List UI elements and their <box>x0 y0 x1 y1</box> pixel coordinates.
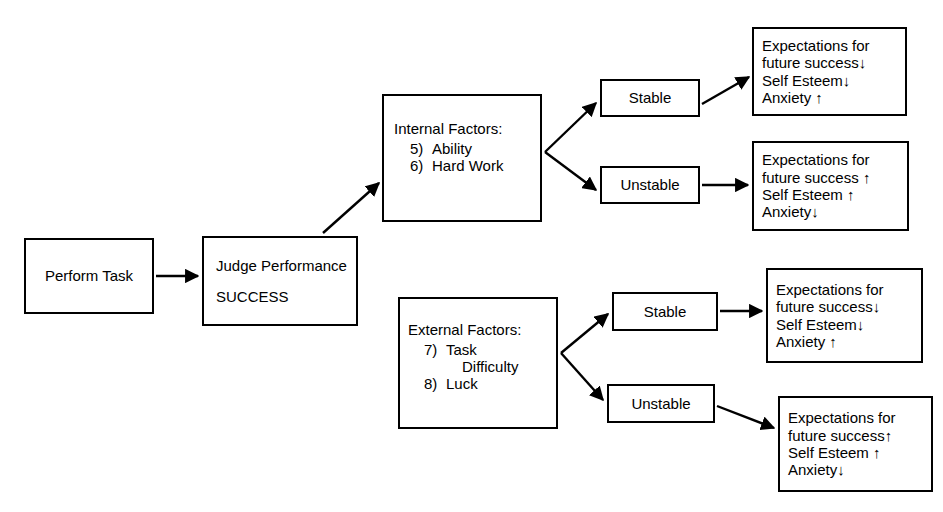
outcome-2-line-3: Self Esteem ↑ <box>762 186 907 203</box>
node-judge-performance[interactable]: Judge Performance SUCCESS <box>202 236 358 326</box>
external-factors-item-1-number: 7) <box>424 341 446 358</box>
edge-external-factors-to-stable <box>561 314 608 353</box>
node-perform-task-label: Perform Task <box>45 267 133 284</box>
outcome-3-line-1: Expectations for <box>776 281 921 298</box>
node-stable-internal[interactable]: Stable <box>600 79 700 117</box>
edge-unstable-external-to-outcome-4 <box>717 406 774 428</box>
outcome-1-line-2: future success↓ <box>762 54 905 71</box>
node-judge-performance-outcome: SUCCESS <box>216 288 356 305</box>
outcome-2-line-2: future success ↑ <box>762 169 907 186</box>
internal-factors-title: Internal Factors: <box>394 120 540 137</box>
external-factors-item-1-continuation: Difficulty <box>408 358 556 375</box>
internal-factors-item-2-text: Hard Work <box>432 157 503 174</box>
edge-external-factors-to-unstable <box>561 353 603 400</box>
external-factors-item-2: 8)Luck <box>408 375 556 392</box>
internal-factors-item-1: 5)Ability <box>394 140 540 157</box>
external-factors-item-1-text: Task <box>446 341 477 358</box>
outcome-1-line-4: Anxiety ↑ <box>762 89 905 106</box>
edge-stable-internal-to-outcome-1 <box>702 77 749 104</box>
node-stable-internal-label: Stable <box>629 89 672 106</box>
node-unstable-external-label: Unstable <box>631 395 690 412</box>
node-outcome-1[interactable]: Expectations for future success↓ Self Es… <box>752 27 907 116</box>
node-stable-external[interactable]: Stable <box>612 292 718 331</box>
node-unstable-internal[interactable]: Unstable <box>600 166 700 204</box>
edge-internal-factors-to-stable <box>545 103 596 152</box>
outcome-1-line-3: Self Esteem↓ <box>762 72 905 89</box>
node-stable-external-label: Stable <box>644 303 687 320</box>
outcome-3-line-2: future success↓ <box>776 298 921 315</box>
node-outcome-4[interactable]: Expectations for future success↑ Self Es… <box>778 396 933 492</box>
outcome-4-line-3: Self Esteem ↑ <box>788 444 931 461</box>
outcome-4-line-4: Anxiety↓ <box>788 461 931 478</box>
diagram-canvas: Perform Task Judge Performance SUCCESS I… <box>0 0 943 512</box>
edge-internal-factors-to-unstable <box>545 152 596 190</box>
internal-factors-item-2: 6)Hard Work <box>394 157 540 174</box>
node-external-factors[interactable]: External Factors: 7)Task Difficulty 8)Lu… <box>398 297 558 429</box>
node-internal-factors[interactable]: Internal Factors: 5)Ability 6)Hard Work <box>382 94 542 222</box>
node-judge-performance-label: Judge Performance <box>216 257 356 274</box>
node-outcome-3[interactable]: Expectations for future success↓ Self Es… <box>766 268 923 363</box>
outcome-3-line-3: Self Esteem↓ <box>776 316 921 333</box>
external-factors-item-2-number: 8) <box>424 375 446 392</box>
node-outcome-2[interactable]: Expectations for future success ↑ Self E… <box>752 141 909 231</box>
edge-judge-performance-to-internal-factors <box>323 183 379 233</box>
outcome-4-line-1: Expectations for <box>788 409 931 426</box>
node-unstable-internal-label: Unstable <box>620 176 679 193</box>
external-factors-title: External Factors: <box>408 321 556 338</box>
internal-factors-item-2-number: 6) <box>410 157 432 174</box>
spacer <box>216 274 356 288</box>
outcome-4-line-2: future success↑ <box>788 427 931 444</box>
internal-factors-item-1-number: 5) <box>410 140 432 157</box>
node-unstable-external[interactable]: Unstable <box>607 384 715 423</box>
outcome-2-line-1: Expectations for <box>762 151 907 168</box>
external-factors-item-1: 7)Task <box>408 341 556 358</box>
node-perform-task[interactable]: Perform Task <box>24 238 154 314</box>
outcome-3-line-4: Anxiety ↑ <box>776 333 921 350</box>
external-factors-item-2-text: Luck <box>446 375 478 392</box>
internal-factors-item-1-text: Ability <box>432 140 472 157</box>
outcome-2-line-4: Anxiety↓ <box>762 203 907 220</box>
outcome-1-line-1: Expectations for <box>762 37 905 54</box>
